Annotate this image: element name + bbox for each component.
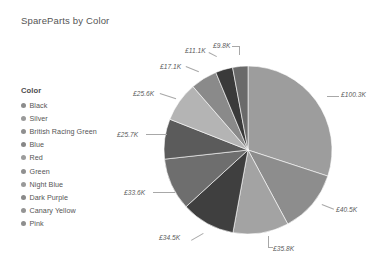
leader-line-9-8k-h xyxy=(232,46,240,47)
leader-line-35-8k-h xyxy=(268,247,273,248)
legend-item-label: Red xyxy=(30,153,43,162)
legend-item-label: Silver xyxy=(30,114,48,123)
leader-line-33-6k xyxy=(153,192,175,193)
pie-slice-group xyxy=(164,66,332,234)
legend-swatch-icon xyxy=(21,129,26,134)
leader-line-35-8k-v xyxy=(268,236,269,247)
legend-item[interactable]: Silver xyxy=(21,112,133,125)
legend-item-label: Night Blue xyxy=(30,180,64,189)
legend-item[interactable]: Green xyxy=(21,164,133,177)
legend-swatch-icon xyxy=(21,208,26,213)
value-label-11-1k: £11.1K xyxy=(185,47,206,54)
legend-item-label: Blue xyxy=(30,140,45,149)
legend-swatch-icon xyxy=(21,103,26,108)
value-label-17-1k: £17.1K xyxy=(160,63,181,70)
legend-swatch-icon xyxy=(21,169,26,174)
value-label-25-6k: £25.6K xyxy=(133,90,154,97)
legend-item-list: BlackSilverBritish Racing GreenBlueRedGr… xyxy=(21,99,133,231)
legend-title: Color xyxy=(21,86,133,95)
legend-item-label: British Racing Green xyxy=(30,127,97,136)
legend-swatch-icon xyxy=(21,116,26,121)
legend-item-label: Canary Yellow xyxy=(30,206,76,215)
legend-item[interactable]: Canary Yellow xyxy=(21,204,133,217)
value-label-100-3k: £100.3K xyxy=(341,91,366,98)
legend-swatch-icon xyxy=(21,155,26,160)
value-label-9-8k: £9.8K xyxy=(213,42,230,49)
legend-swatch-icon xyxy=(21,182,26,187)
legend-item[interactable]: Blue xyxy=(21,138,133,151)
legend-swatch-icon xyxy=(21,221,26,226)
leader-line-100-3k xyxy=(327,96,339,97)
leader-line-9-8k-v xyxy=(239,46,240,55)
legend-item-label: Green xyxy=(30,167,50,176)
page-title: SpareParts by Color xyxy=(21,15,109,26)
value-label-25-7k: £25.7K xyxy=(117,131,138,138)
legend-item-label: Pink xyxy=(30,219,44,228)
value-label-40-5k: £40.5K xyxy=(336,206,357,213)
legend-item[interactable]: Dark Purple xyxy=(21,191,133,204)
legend-item[interactable]: Red xyxy=(21,151,133,164)
pie-svg xyxy=(164,54,332,246)
chart-page: SpareParts by Color Color BlackSilverBri… xyxy=(0,0,384,273)
legend-item[interactable]: Night Blue xyxy=(21,178,133,191)
value-label-33-6k: £33.6K xyxy=(124,189,145,196)
leader-line-25-7k xyxy=(146,134,167,135)
pie-chart xyxy=(164,54,332,246)
value-label-35-8k: £35.8K xyxy=(273,245,294,252)
legend-swatch-icon xyxy=(21,142,26,147)
legend-item[interactable]: Pink xyxy=(21,217,133,230)
legend-item-label: Dark Purple xyxy=(30,193,69,202)
legend-swatch-icon xyxy=(21,195,26,200)
legend-item[interactable]: Black xyxy=(21,99,133,112)
value-label-34-5k: £34.5K xyxy=(159,234,180,241)
legend-item-label: Black xyxy=(30,101,48,110)
legend: Color BlackSilverBritish Racing GreenBlu… xyxy=(21,86,133,230)
